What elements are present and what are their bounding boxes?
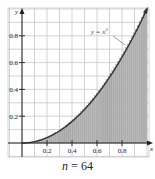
svg-text:0.6: 0.6: [9, 59, 18, 67]
svg-text:0.8: 0.8: [9, 32, 18, 40]
svg-text:0.4: 0.4: [9, 86, 18, 94]
svg-text:0.2: 0.2: [9, 113, 18, 121]
svg-text:0.4: 0.4: [68, 147, 77, 155]
riemann-sum-chart: 0.20.40.60.80.20.40.60.8xyy = x2: [0, 0, 155, 158]
svg-text:x: x: [149, 145, 154, 153]
chart-caption: n = 64: [0, 159, 155, 174]
svg-text:0.2: 0.2: [43, 147, 52, 155]
svg-text:0.6: 0.6: [93, 147, 102, 155]
svg-text:y = x2: y = x2: [90, 27, 108, 36]
svg-text:0.8: 0.8: [118, 147, 127, 155]
caption-value: = 64: [68, 159, 93, 173]
